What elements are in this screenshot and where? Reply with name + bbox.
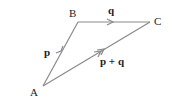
vector-label-p: p [44,46,50,58]
edge-ac-p-plus-q [43,22,150,86]
vector-label-p-plus-q: p + q [100,55,125,67]
vector-triangle-diagram: A B C p q p + q [0,0,173,109]
vector-label-q: q [108,4,115,16]
vertex-label-b: B [69,7,76,19]
vertex-label-a: A [30,86,38,98]
vertex-label-c: C [154,15,161,27]
